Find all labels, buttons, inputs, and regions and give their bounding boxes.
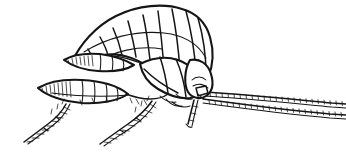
figure-root	[0, 0, 346, 154]
leg-middle	[100, 96, 156, 146]
leg-rear	[24, 99, 70, 144]
amphipod-line-drawing	[0, 0, 346, 154]
leg-front	[186, 100, 198, 127]
lower-uropod	[38, 80, 128, 104]
